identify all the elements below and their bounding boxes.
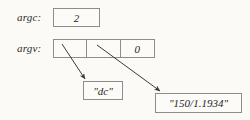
argc-label: argc:: [17, 11, 41, 23]
string-dc-box: "dc": [83, 81, 123, 100]
argv-cell-1: [87, 40, 120, 57]
argv-array-box: 0: [53, 39, 155, 58]
argv-cell-2: 0: [121, 40, 154, 57]
string-dc-value: "dc": [93, 85, 113, 97]
argc-value: 2: [74, 12, 80, 24]
string-number-box: "150/1.1934": [155, 93, 242, 113]
argv-cell-0: [54, 40, 87, 57]
memory-layout-diagram: argc: 2 argv: 0 "dc" "150/1.1934": [0, 0, 250, 120]
argv-label: argv:: [17, 42, 41, 54]
string-number-value: "150/1.1934": [169, 97, 228, 109]
argc-value-box: 2: [53, 8, 100, 27]
